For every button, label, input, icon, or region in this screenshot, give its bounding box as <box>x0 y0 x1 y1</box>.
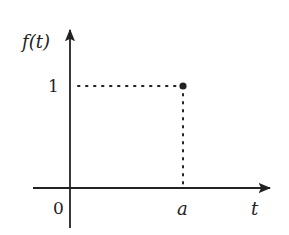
origin-label: 0 <box>53 198 64 218</box>
x-axis-label: t <box>251 198 259 219</box>
point-marker <box>179 82 186 89</box>
y-axis-label: f(t) <box>20 31 50 52</box>
function-graph: f(t) 1 0 a t <box>0 0 289 235</box>
x-tick-label-a: a <box>177 198 188 219</box>
y-tick-label-1: 1 <box>48 76 59 96</box>
